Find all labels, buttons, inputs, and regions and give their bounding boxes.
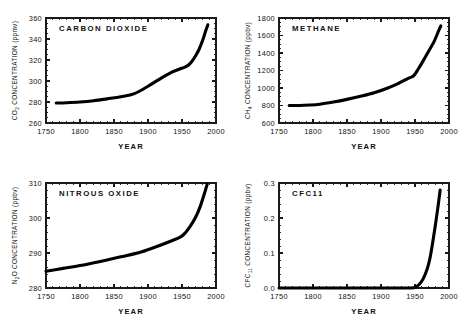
chart-nitrous-oxide: 175018001850190019502000280290300310YEAR… [0,165,233,331]
y-tick-label: 1400 [257,49,275,58]
x-tick-label: 1850 [105,127,123,136]
y-tick-label: 800 [262,101,275,110]
chart-methane: 1750180018501900195020006008001000120014… [233,0,466,165]
four-panel-greenhouse-gas-figure: 1750180018501900195020002602803003203403… [0,0,466,331]
y-tick-label: 320 [29,56,42,65]
y-tick-label: 1800 [257,14,275,23]
panel-title: NITROUS OXIDE [59,189,140,198]
x-tick-label: 2000 [440,292,458,301]
x-axis-title: YEAR [118,142,144,151]
y-tick-label: 0.0 [264,284,275,293]
x-tick-label: 1800 [304,292,322,301]
x-tick-label: 1750 [37,127,55,136]
x-tick-label: 1750 [270,292,288,301]
panel-title: METHANE [292,24,341,33]
panel-title: CFC11 [292,189,324,198]
x-tick-label: 1950 [406,292,424,301]
x-tick-label: 2000 [440,127,458,136]
x-tick-label: 1950 [406,127,424,136]
chart-cfc11: 1750180018501900195020000.00.10.20.3YEAR… [233,165,466,331]
x-tick-label: 1750 [270,127,288,136]
y-axis-title: CH4 CONCENTRATION (ppbv) [244,22,253,119]
y-tick-label: 290 [29,249,42,258]
y-tick-label: 600 [262,119,275,128]
x-tick-label: 1850 [338,127,356,136]
data-curve-cfc11 [279,190,440,288]
y-tick-label: 1200 [257,66,275,75]
y-tick-label: 0.3 [264,179,275,188]
x-tick-label: 1800 [304,127,322,136]
y-axis-title: CO2 CONCENTRATION (ppmv) [11,21,20,120]
data-curve-ch4 [289,26,441,106]
y-tick-label: 280 [29,98,42,107]
y-tick-label: 340 [29,35,42,44]
panel-carbon-dioxide: 1750180018501900195020002602803003203403… [0,0,233,165]
panel-cfc11: 1750180018501900195020000.00.10.20.3YEAR… [233,165,466,330]
y-axis-title: N2O CONCENTRATION (ppbv) [11,187,20,284]
y-tick-label: 280 [29,284,42,293]
y-axis-title: CFC11 CONCENTRATION (ppbv) [244,184,253,288]
panel-title: CARBON DIOXIDE [59,24,148,33]
chart-carbon-dioxide: 1750180018501900195020002602803003203403… [0,0,233,165]
y-tick-label: 1000 [257,84,275,93]
x-tick-label: 1950 [173,127,191,136]
x-tick-label: 1900 [372,127,390,136]
x-tick-label: 1750 [37,292,55,301]
y-tick-label: 260 [29,119,42,128]
y-tick-label: 300 [29,77,42,86]
x-tick-label: 1800 [71,127,89,136]
panel-nitrous-oxide: 175018001850190019502000280290300310YEAR… [0,165,233,330]
x-tick-label: 1900 [139,292,157,301]
x-tick-label: 1950 [173,292,191,301]
x-tick-label: 1850 [338,292,356,301]
y-tick-label: 310 [29,179,42,188]
x-axis-title: YEAR [118,307,144,316]
x-tick-label: 2000 [207,127,225,136]
y-tick-label: 300 [29,214,42,223]
x-tick-label: 1900 [372,292,390,301]
x-axis-title: YEAR [351,307,377,316]
y-tick-label: 0.2 [264,214,275,223]
x-tick-label: 2000 [207,292,225,301]
y-tick-label: 360 [29,14,42,23]
y-tick-label: 0.1 [264,249,275,258]
data-curve-co2 [56,25,208,103]
x-tick-label: 1850 [105,292,123,301]
y-tick-label: 1600 [257,31,275,40]
panel-methane: 1750180018501900195020006008001000120014… [233,0,466,165]
x-axis-title: YEAR [351,142,377,151]
x-tick-label: 1900 [139,127,157,136]
x-tick-label: 1800 [71,292,89,301]
